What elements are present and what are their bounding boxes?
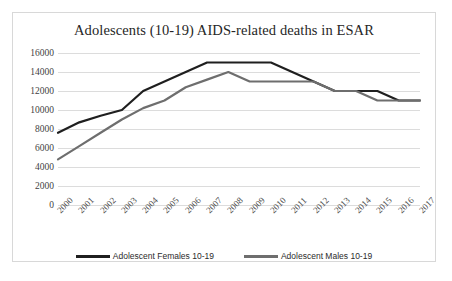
plot-area (58, 53, 420, 205)
legend-item[interactable]: Adolescent Females 10-19 (76, 251, 214, 261)
series-lines (58, 53, 420, 205)
series-line (58, 72, 420, 159)
y-tick-label: 2000 (35, 181, 54, 191)
legend-label: Adolescent Females 10-19 (113, 251, 214, 261)
x-axis-labels: 2000200120022003200420052006200720082009… (58, 205, 420, 251)
chart-title: Adolescents (10-19) AIDS-related deaths … (13, 22, 435, 39)
y-tick-label: 10000 (30, 105, 54, 115)
y-tick-label: 16000 (30, 48, 54, 58)
y-tick-label: 12000 (30, 86, 54, 96)
y-tick-label: 8000 (35, 124, 54, 134)
y-tick-label: 4000 (35, 162, 54, 172)
y-tick-label: 14000 (30, 67, 54, 77)
legend-label: Adolescent Males 10-19 (281, 251, 372, 261)
chart-legend: Adolescent Females 10-19Adolescent Males… (13, 251, 435, 261)
y-tick-label: 0 (49, 200, 54, 210)
y-axis-labels: 0200040006000800010000120001400016000 (13, 53, 54, 205)
legend-swatch (76, 255, 110, 258)
legend-swatch (244, 255, 278, 258)
chart-frame: Adolescents (10-19) AIDS-related deaths … (12, 12, 436, 262)
y-tick-label: 6000 (35, 143, 54, 153)
legend-item[interactable]: Adolescent Males 10-19 (244, 251, 372, 261)
series-line (58, 63, 420, 133)
